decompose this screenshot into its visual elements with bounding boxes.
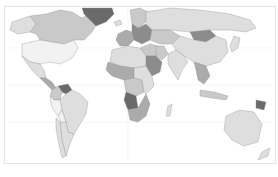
- region-papua-new-guinea[interactable]: [256, 100, 266, 110]
- region-russia[interactable]: [146, 8, 256, 32]
- region-japan[interactable]: [230, 36, 240, 52]
- region-central-america[interactable]: [40, 78, 56, 90]
- region-united-states[interactable]: [22, 40, 78, 64]
- region-new-zealand[interactable]: [258, 148, 270, 160]
- region-indonesia[interactable]: [200, 90, 228, 100]
- region-iceland[interactable]: [114, 20, 122, 26]
- region-eastern-europe[interactable]: [132, 24, 152, 44]
- region-western-europe[interactable]: [116, 30, 134, 46]
- region-australia[interactable]: [224, 110, 262, 146]
- region-madagascar[interactable]: [166, 104, 172, 116]
- world-map[interactable]: [0, 0, 278, 177]
